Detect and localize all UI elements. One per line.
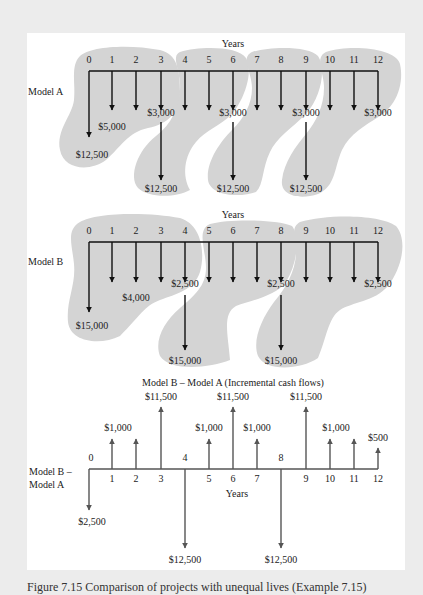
year-tick-11: 11 xyxy=(349,473,359,484)
year-tick-6: 6 xyxy=(231,473,236,484)
year-tick-0: 0 xyxy=(87,54,92,65)
year-tick-7: 7 xyxy=(255,473,260,484)
replacement-amount-label: $12,500 xyxy=(290,183,323,194)
year-tick-10: 10 xyxy=(325,54,335,65)
year-tick-9: 9 xyxy=(304,54,309,65)
inflow-label-year-6: $11,500 xyxy=(217,391,249,402)
year-tick-11: 11 xyxy=(349,54,359,65)
year-tick-0: 0 xyxy=(89,452,94,463)
year-tick-5: 5 xyxy=(207,473,212,484)
incremental-timeline: Model B – Model A (Incremental cash flow… xyxy=(29,377,388,565)
incremental-label-line2: Model A xyxy=(29,479,65,490)
inflow-label-year-1: $1,000 xyxy=(104,422,132,433)
year-tick-10: 10 xyxy=(325,225,335,236)
inflow-label-year-7: $1,000 xyxy=(243,422,271,433)
amount-label-year-0: $15,000 xyxy=(76,320,109,331)
year-tick-5: 5 xyxy=(207,54,212,65)
figure-caption: Figure 7.15 Comparison of projects with … xyxy=(27,580,423,595)
amount-label-year-12: $3,000 xyxy=(364,107,392,118)
year-tick-10: 10 xyxy=(325,473,335,484)
year-tick-4: 4 xyxy=(183,225,188,236)
incremental-title: Model B – Model A (Incremental cash flow… xyxy=(142,377,324,389)
amount-label-year-4: $2,500 xyxy=(171,278,199,289)
year-tick-1: 1 xyxy=(110,54,115,65)
amount-label-year-9: $3,000 xyxy=(292,107,320,118)
year-tick-3: 3 xyxy=(159,473,164,484)
inflow-label-year-9: $11,500 xyxy=(290,391,322,402)
year-tick-3: 3 xyxy=(159,54,164,65)
year-tick-0: 0 xyxy=(87,225,92,236)
replacement-amount-label: $15,000 xyxy=(265,355,298,366)
year-tick-8: 8 xyxy=(279,225,284,236)
replacement-amount-label: $12,500 xyxy=(217,183,250,194)
replacement-amount-label: $15,000 xyxy=(169,355,202,366)
amount-label-year-8: $2,500 xyxy=(267,278,295,289)
year-tick-3: 3 xyxy=(159,225,164,236)
model-b-cycle-blobs xyxy=(68,214,403,368)
year-tick-2: 2 xyxy=(134,54,139,65)
amount-label-year-1: $5,000 xyxy=(98,121,126,132)
model-a-label: Model A xyxy=(28,86,64,97)
year-tick-12: 12 xyxy=(373,225,383,236)
incremental-year-ticks: 0123456789101112 xyxy=(89,452,384,484)
replacement-amount-label: $12,500 xyxy=(145,183,178,194)
incremental-years-label: Years xyxy=(226,488,248,499)
model-a-years-label: Years xyxy=(222,38,244,49)
year-tick-1: 1 xyxy=(110,473,115,484)
year-tick-8: 8 xyxy=(279,54,284,65)
year-tick-12: 12 xyxy=(373,54,383,65)
year-tick-4: 4 xyxy=(183,54,188,65)
year-tick-7: 7 xyxy=(255,54,260,65)
year-tick-2: 2 xyxy=(134,225,139,236)
amount-label-year-3: $3,000 xyxy=(147,107,175,118)
inflow-label-year-5: $1,000 xyxy=(195,422,223,433)
year-tick-2: 2 xyxy=(134,473,139,484)
year-tick-7: 7 xyxy=(255,225,260,236)
inflow-label-year-12: $500 xyxy=(368,432,388,443)
outflow-label-year-4: $12,500 xyxy=(169,554,202,565)
year-tick-5: 5 xyxy=(207,225,212,236)
year-tick-9: 9 xyxy=(304,225,309,236)
inflow-label-year-3: $11,500 xyxy=(145,391,177,402)
year-tick-11: 11 xyxy=(349,225,359,236)
inflow-label-year-10: $1,000 xyxy=(322,422,350,433)
amount-label-year-6: $3,000 xyxy=(219,107,247,118)
year-tick-6: 6 xyxy=(231,54,236,65)
year-tick-12: 12 xyxy=(373,473,383,484)
model-b-years-label: Years xyxy=(222,209,244,220)
outflow-label-year-8: $12,500 xyxy=(265,554,298,565)
outflow-label-year-0: $2,500 xyxy=(78,516,106,527)
amount-label-year-0: $12,500 xyxy=(76,149,109,160)
year-tick-8: 8 xyxy=(279,452,284,463)
year-tick-6: 6 xyxy=(231,225,236,236)
model-b-label: Model B xyxy=(28,256,64,267)
amount-label-year-12: $2,500 xyxy=(364,278,392,289)
year-tick-4: 4 xyxy=(183,452,188,463)
amount-label-year-2: $4,000 xyxy=(122,292,150,303)
year-tick-9: 9 xyxy=(304,473,309,484)
incremental-label-line1: Model B – xyxy=(29,466,73,477)
year-tick-1: 1 xyxy=(110,225,115,236)
